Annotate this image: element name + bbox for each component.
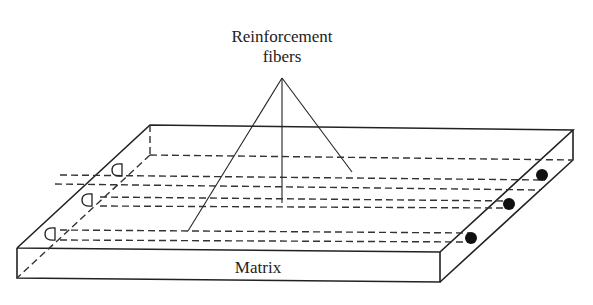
slab-top-face	[17, 125, 573, 252]
fiber-3	[45, 228, 477, 244]
fiber-end-solid-icon	[465, 232, 477, 244]
leader-lines	[188, 78, 352, 231]
fibers-label-line2: fibers	[263, 47, 302, 66]
leader-line-left	[188, 78, 282, 231]
fiber-end-solid-icon	[503, 198, 515, 210]
hidden-edge-left-bottom	[17, 155, 150, 278]
matrix-slab	[17, 125, 573, 282]
fibers-label-line1: Reinforcement	[231, 27, 332, 46]
hidden-edge-back-bottom	[150, 155, 573, 160]
fiber-end-open-icon	[82, 194, 92, 206]
fiber-end-solid-icon	[536, 169, 548, 181]
composite-diagram: Reinforcement fibers Matrix	[0, 0, 593, 305]
fiber-end-open-icon	[112, 164, 122, 176]
fiber-end-open-icon	[45, 228, 55, 240]
matrix-label: Matrix	[235, 258, 282, 277]
slab-front-face	[17, 248, 440, 282]
fiber-1	[55, 164, 548, 190]
fiber-2	[82, 194, 515, 210]
